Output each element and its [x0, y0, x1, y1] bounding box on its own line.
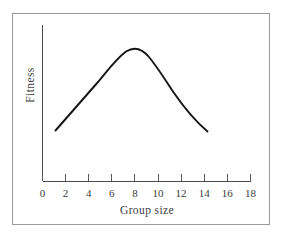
x-tick-label-6: 6 [101, 187, 123, 199]
y-axis-title: Fitness [24, 50, 36, 120]
x-tick-label-12: 12 [170, 187, 192, 199]
x-tick-label-16: 16 [216, 187, 238, 199]
figure-container: 0 2 4 6 8 10 12 14 16 18 Group size Fitn… [0, 0, 283, 237]
fitness-curve [56, 49, 208, 132]
x-tick-label-18: 18 [239, 187, 261, 199]
x-tick-label-8: 8 [124, 187, 146, 199]
x-axis-title: Group size [42, 204, 252, 216]
chart-plot-area [0, 0, 283, 237]
x-tick-label-14: 14 [193, 187, 215, 199]
x-tick-label-2: 2 [55, 187, 77, 199]
x-tick-label-0: 0 [32, 187, 54, 199]
x-tick-label-4: 4 [78, 187, 100, 199]
x-axis-ticks [43, 174, 251, 181]
x-tick-label-10: 10 [147, 187, 169, 199]
